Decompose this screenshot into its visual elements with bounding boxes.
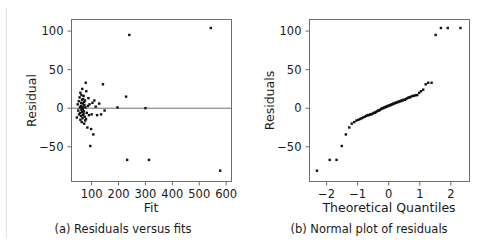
data-point [79,112,81,114]
tick-marks-b [306,31,451,185]
data-point [95,105,97,107]
data-point [447,27,449,29]
data-point [81,117,83,119]
data-point [430,82,432,84]
y-tick-label: 0 [56,101,63,115]
y-axis-title-a: Residual [24,74,39,127]
data-point [79,119,81,121]
data-point [348,126,350,128]
panel-normal-plot-of-residuals: −50050100 −2−1012 Residuals Theoretical … [245,0,491,245]
data-point [80,115,82,117]
data-point [341,145,343,147]
x-tick-label: −1 [349,187,366,201]
data-point [328,159,330,161]
data-point [87,97,89,99]
data-point [86,126,88,128]
data-point [89,145,91,147]
data-point [144,107,146,109]
y-tick-label: 100 [280,24,302,38]
x-tick-label: 0 [385,187,392,201]
data-point [80,105,82,107]
data-point [82,95,84,97]
data-point [85,90,87,92]
data-point [85,82,87,84]
x-axis-title-b: Theoretical Quantiles [321,200,455,215]
data-point [210,27,212,29]
data-point [351,122,353,124]
panel-caption-a: (a) Residuals versus fits [54,222,191,236]
data-point [90,128,92,130]
data-point [92,133,94,135]
data-point [77,109,79,111]
data-point [96,114,98,116]
data-point [79,92,81,94]
data-point [83,116,85,118]
data-point [85,118,87,120]
scatter-points-b [316,27,462,172]
x-tick-label: 600 [215,187,237,201]
data-point [76,116,78,118]
y-axis-title-b: Residuals [262,71,277,130]
y-tick-labels-b: −50050100 [277,24,301,154]
y-tick-labels-a: −50050100 [39,24,63,154]
data-point [98,102,100,104]
panel-residuals-versus-fits: −50050100 100200300400500600 Residual Fi… [0,0,246,245]
data-point [128,34,130,36]
data-point [82,112,84,114]
scatter-points-a [76,27,222,172]
data-point [91,102,93,104]
y-tick-label: −50 [277,140,301,154]
data-point [353,121,355,123]
data-point [125,95,127,97]
data-point [219,170,221,172]
y-tick-label: 50 [49,63,64,77]
normal-plot-of-residuals-svg: −50050100 −2−1012 Residuals Theoretical … [245,0,491,245]
x-tick-label: 2 [447,187,454,201]
data-point [416,94,418,96]
x-tick-label: −2 [318,187,335,201]
x-axis-title-a: Fit [144,200,159,215]
data-point [316,170,318,172]
x-tick-label: 100 [81,187,103,201]
x-tick-label: 400 [161,187,183,201]
data-point [459,27,461,29]
x-tick-labels-b: −2−1012 [318,187,454,201]
data-point [82,108,84,110]
y-tick-label: 100 [42,24,64,38]
data-point [335,159,337,161]
data-point [434,34,436,36]
data-point [84,99,86,101]
data-point [422,89,424,91]
x-tick-label: 200 [108,187,130,201]
data-point [116,106,118,108]
y-tick-label: 50 [287,63,302,77]
x-tick-label: 300 [134,187,156,201]
data-point [103,109,105,111]
data-point [83,122,85,124]
data-point [80,94,82,96]
data-point [88,103,90,105]
x-tick-label: 500 [188,187,210,201]
data-point [126,159,128,161]
data-point [102,83,104,85]
data-point [345,133,347,135]
data-point [100,113,102,115]
data-point [83,110,85,112]
data-point [93,99,95,101]
data-point [78,100,80,102]
data-point [420,90,422,92]
data-point [148,159,150,161]
data-point [86,112,88,114]
figure-container: −50050100 100200300400500600 Residual Fi… [0,0,491,245]
data-point [88,114,90,116]
y-tick-label: 0 [294,101,301,115]
residuals-versus-fits-svg: −50050100 100200300400500600 Residual Fi… [0,0,246,245]
data-point [81,88,83,90]
panel-caption-b: (b) Normal plot of residuals [290,222,447,236]
data-point [427,82,429,84]
data-point [83,104,85,106]
data-point [78,96,80,98]
x-tick-label: 1 [416,187,423,201]
data-point [440,27,442,29]
data-point [76,103,78,105]
